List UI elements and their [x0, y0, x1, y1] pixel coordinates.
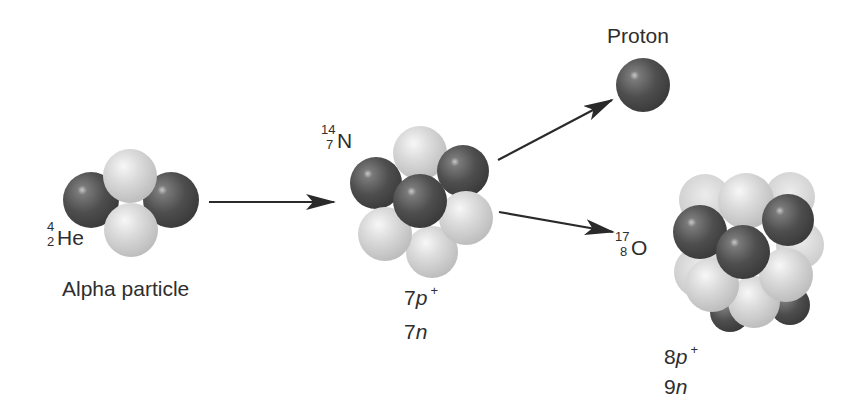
n-neutron-count: 7n — [404, 320, 427, 343]
o-mass-number: 17 — [615, 229, 629, 244]
proton-sphere — [393, 174, 447, 228]
n-atomic-number: 7 — [326, 137, 333, 152]
o-neutron-count: 9n — [664, 375, 687, 398]
he-atomic-number: 2 — [47, 234, 54, 249]
proton-sphere — [716, 225, 770, 279]
neutron-sphere — [103, 149, 157, 203]
n-symbol: N — [337, 129, 352, 152]
n-mass-number: 14 — [321, 122, 335, 137]
nitrogen-composition: 7p+ 7n — [404, 283, 438, 343]
nitrogen-nucleus — [350, 126, 493, 278]
proton-label: Proton — [607, 24, 669, 47]
he-symbol: He — [57, 226, 84, 249]
oxygen-label: 17 8 O — [615, 229, 647, 259]
reaction-diagram: 4 2 He Alpha particle 14 7 N 7p+ 7n Prot… — [0, 0, 860, 403]
proton-sphere — [616, 58, 670, 112]
proton-sphere — [762, 194, 814, 246]
neutron-sphere — [104, 203, 158, 257]
o-proton-count: 8p+ — [664, 342, 698, 368]
alpha-particle-caption: Alpha particle — [62, 277, 189, 300]
neutron-sphere — [439, 191, 493, 245]
he-mass-number: 4 — [47, 219, 54, 234]
o-symbol: O — [631, 236, 647, 259]
arrow-nitrogen-to-proton — [498, 100, 612, 160]
o-atomic-number: 8 — [620, 244, 627, 259]
n-proton-count: 7p+ — [404, 283, 438, 309]
oxygen-composition: 8p+ 9n — [664, 342, 698, 398]
nitrogen-label: 14 7 N — [321, 122, 352, 152]
oxygen-nucleus — [673, 172, 824, 332]
arrow-nitrogen-to-oxygen — [499, 212, 613, 232]
proton-sphere — [437, 145, 489, 197]
